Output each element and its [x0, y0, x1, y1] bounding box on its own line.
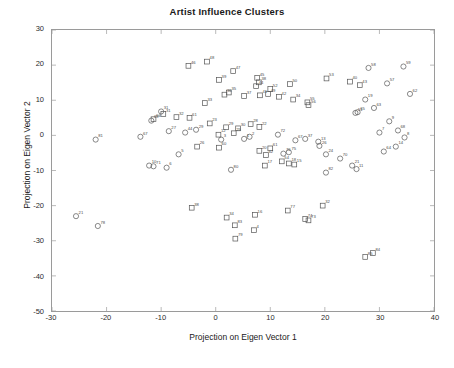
- data-point-label: 75: [291, 146, 296, 151]
- chart-figure: Artist Influence Clusters 46484739453844…: [0, 0, 454, 368]
- data-point-label: 24: [329, 148, 334, 153]
- data-point-label: 82: [329, 166, 334, 171]
- x-tick-label: -10: [141, 313, 181, 322]
- scatter-canvas: 4648473945384452505340433635374149423455…: [52, 30, 434, 311]
- plot-area: 4648473945384452505340433635374149423455…: [51, 29, 435, 312]
- data-point-label: 44: [188, 126, 193, 131]
- data-point-label: 26: [200, 140, 205, 145]
- data-point-label: 34: [229, 211, 234, 216]
- y-axis-label: Projection on Eigen Vector 2: [22, 45, 32, 265]
- data-point-label: 63: [377, 102, 382, 107]
- data-point-label: 43: [362, 79, 367, 84]
- data-point-label: 23: [212, 117, 217, 122]
- data-point-label: 72: [281, 128, 286, 133]
- data-point-label: 84: [375, 247, 380, 252]
- data-point-label: 47: [236, 65, 241, 70]
- data-point-label: 16: [258, 209, 263, 214]
- data-point-label: 30: [241, 122, 246, 127]
- data-point-label: 35: [231, 86, 236, 91]
- data-point-label: 61: [192, 112, 197, 117]
- data-point-label: 76: [286, 147, 291, 152]
- data-point-label: 64: [386, 145, 391, 150]
- data-point-label: 37: [308, 133, 313, 138]
- data-point-label: 46: [191, 60, 196, 65]
- data-point-label: 61: [273, 142, 278, 147]
- data-point-label: 71: [156, 160, 161, 165]
- data-point-label: 73: [311, 214, 316, 219]
- data-point-label: 62: [413, 88, 418, 93]
- data-point-label: 28: [253, 118, 258, 123]
- data-point-label: 59: [406, 60, 411, 65]
- data-point-label: 65: [360, 106, 365, 111]
- data-point-label: 32: [325, 199, 330, 204]
- data-point-label: 15: [297, 158, 302, 163]
- y-tick-label: -40: [0, 272, 44, 281]
- data-point-label: 56: [311, 99, 316, 104]
- data-point-label: 40: [353, 75, 358, 80]
- data-point-label: 42: [269, 149, 274, 154]
- data-point-label: 32: [179, 111, 184, 116]
- data-point-label: 50: [293, 78, 298, 83]
- data-point-label: 44: [259, 80, 264, 85]
- data-point-label: 83: [237, 219, 242, 224]
- data-point-label: 20: [262, 145, 267, 150]
- data-point-label: 4: [257, 224, 260, 229]
- data-point-label: 5: [181, 148, 184, 153]
- chart-title: Artist Influence Clusters: [0, 6, 454, 17]
- y-tick-label: -50: [0, 307, 44, 316]
- data-point-label: 69: [154, 114, 159, 119]
- data-point-label: 21: [79, 210, 84, 215]
- data-point-label: 9: [392, 115, 395, 120]
- data-point-label: 33: [207, 97, 212, 102]
- data-point-label: 77: [290, 204, 295, 209]
- data-point-label: 78: [100, 220, 105, 225]
- data-point-label: 27: [171, 125, 176, 130]
- x-tick-label: 0: [196, 313, 236, 322]
- data-point-label: 53: [329, 72, 334, 77]
- x-axis-label: Projection on Eigen Vector 1: [51, 332, 435, 342]
- data-point-label: 17: [267, 159, 272, 164]
- x-tick-label: 40: [415, 313, 454, 322]
- series-cluster-circle: 5859576219516563976881464133767247021112…: [73, 60, 417, 228]
- data-point-label: 26: [322, 140, 327, 145]
- data-point-label: 19: [368, 93, 373, 98]
- data-point-label: 58: [371, 62, 376, 67]
- data-point-label: 49: [271, 88, 276, 93]
- data-point-label: 57: [390, 77, 395, 82]
- data-point-label: 67: [298, 134, 303, 139]
- data-point-label: 2: [252, 131, 255, 136]
- data-point-label: 67: [143, 131, 148, 136]
- x-tick-label: 30: [360, 313, 400, 322]
- data-point-label: 25: [236, 127, 241, 132]
- data-point-label: 14: [398, 140, 403, 145]
- x-tick-label: -20: [86, 313, 126, 322]
- data-point-label: 85: [368, 251, 373, 256]
- x-tick-label: 20: [305, 313, 345, 322]
- data-point-label: 8: [407, 131, 410, 136]
- data-point-label: 11: [359, 163, 364, 168]
- data-point-label: 70: [343, 152, 348, 157]
- data-point-label: 29: [199, 124, 204, 129]
- data-point-label: 6: [169, 162, 172, 167]
- data-point-label: 48: [210, 55, 215, 60]
- data-point-label: 81: [98, 133, 103, 138]
- x-tick-label: 10: [250, 313, 290, 322]
- data-point-label: 34: [296, 93, 301, 98]
- y-tick-label: 30: [0, 24, 44, 33]
- data-point-label: 29: [229, 121, 234, 126]
- data-point-label: 38: [194, 202, 199, 207]
- data-point-label: 39: [222, 74, 227, 79]
- data-point-label: 37: [247, 90, 252, 95]
- data-point-label: 79: [238, 232, 243, 237]
- data-point-label: 42: [282, 91, 287, 96]
- data-point-label: 22: [262, 121, 267, 126]
- data-point-label: 7: [382, 126, 385, 131]
- data-point-label: 3: [224, 133, 227, 138]
- data-point-label: 68: [401, 124, 406, 129]
- data-point-label: 31: [164, 105, 169, 110]
- data-point-label: 80: [234, 164, 239, 169]
